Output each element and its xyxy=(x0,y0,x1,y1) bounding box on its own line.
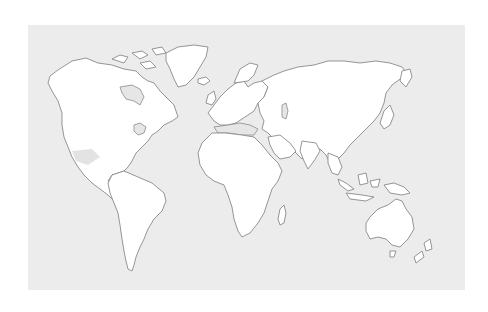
world-map xyxy=(28,25,465,290)
